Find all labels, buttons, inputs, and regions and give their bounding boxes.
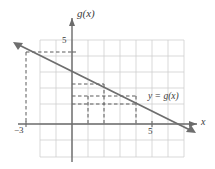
tick-marks bbox=[26, 52, 152, 127]
x-tick-label-5: 5 bbox=[148, 127, 153, 136]
y-axis-label: g(x) bbox=[77, 8, 95, 19]
graph-figure: g(x) x 5 5 −3 y = g(x) bbox=[0, 0, 215, 169]
x-axis-label: x bbox=[201, 117, 205, 127]
y-axis-arrow bbox=[69, 18, 75, 26]
x-tick-label-neg3: −3 bbox=[14, 126, 24, 135]
y-tick-label-5: 5 bbox=[62, 36, 67, 45]
curve-equation-label: y = g(x) bbox=[148, 92, 179, 102]
x-axis-arrow bbox=[189, 121, 197, 127]
coordinate-plot bbox=[0, 0, 215, 169]
